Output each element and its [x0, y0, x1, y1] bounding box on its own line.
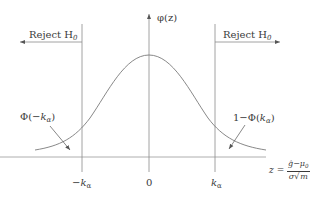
tick-k-alpha: kα — [211, 178, 222, 190]
normal-distribution-diagram: φ(z) Reject H0 Reject H0 Φ(−kα) 1−Φ(kα) … — [0, 0, 316, 197]
left-tail-annotation: Φ(−kα) — [20, 112, 55, 124]
formula-root: m — [299, 171, 308, 181]
formula-numerator: ĝ−μ0 — [287, 160, 310, 172]
right-tail-prefix: 1−Φ( — [233, 112, 260, 123]
left-tail-suffix: ) — [51, 111, 55, 122]
tick-neg-k-alpha: −kα — [72, 178, 91, 190]
tick-zero: 0 — [146, 178, 152, 188]
right-reject-label: Reject H0 — [223, 30, 271, 42]
left-reject-label: Reject H0 — [29, 30, 77, 42]
formula-z: z — [269, 165, 274, 175]
tick-zero-text: 0 — [146, 177, 152, 188]
right-tail-suffix: ) — [271, 112, 275, 123]
left-reject-sub: 0 — [73, 34, 77, 42]
right-tail-pointer — [229, 125, 245, 149]
formula-num-sub: 0 — [305, 163, 309, 169]
formula-denominator: σ√m — [287, 172, 310, 181]
formula-equals: = — [277, 165, 285, 175]
formula-fraction: ĝ−μ0 σ√m — [287, 160, 310, 181]
x-axis-formula: z = ĝ−μ0 σ√m — [269, 160, 310, 181]
left-tail-prefix: Φ(− — [20, 111, 40, 122]
right-tail-annotation: 1−Φ(kα) — [233, 113, 275, 125]
left-tail-pointer — [50, 126, 70, 150]
bell-curve — [35, 55, 266, 150]
tick-k-sub: α — [217, 182, 222, 190]
y-axis-label-text: φ(z) — [157, 12, 177, 23]
formula-sigma: σ — [289, 172, 294, 181]
formula-num-text: ĝ−μ — [288, 159, 305, 168]
right-reject-sub: 0 — [267, 34, 271, 42]
tick-neg-k-sub: α — [86, 182, 91, 190]
left-reject-text: Reject H — [29, 29, 73, 40]
tick-neg-k-text: −k — [72, 177, 86, 188]
y-axis-label: φ(z) — [157, 13, 177, 23]
right-reject-text: Reject H — [223, 29, 267, 40]
